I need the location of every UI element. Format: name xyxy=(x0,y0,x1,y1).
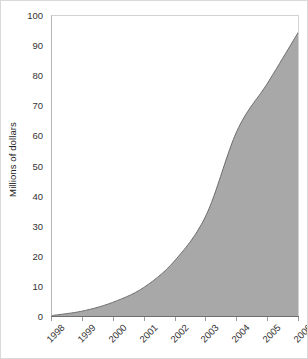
x-axis-tick xyxy=(236,317,237,321)
x-axis-tick-label: 2002 xyxy=(168,322,191,345)
x-axis-tick-label: 2006 xyxy=(291,322,308,345)
y-axis-tick-label: 90 xyxy=(32,40,43,51)
y-axis-title: Millions of dollars xyxy=(1,1,23,317)
y-axis-tick-label: 0 xyxy=(38,311,43,322)
y-axis-tick-label: 40 xyxy=(32,190,43,201)
y-axis-tick-label: 100 xyxy=(27,10,43,21)
x-axis-tick-label: 1998 xyxy=(44,322,67,345)
area-fill-shape xyxy=(52,31,299,317)
x-axis-tick-label: 2003 xyxy=(198,322,221,345)
plot-right-edge xyxy=(298,15,299,316)
x-axis-tick xyxy=(82,317,83,321)
y-axis-tick-label: 60 xyxy=(32,130,43,141)
x-axis-tick xyxy=(175,317,176,321)
y-axis-tick-label: 30 xyxy=(32,220,43,231)
y-axis-tick-label: 70 xyxy=(32,100,43,111)
x-axis-tick-label: 2004 xyxy=(229,322,252,345)
area-series-svg xyxy=(52,16,299,317)
x-axis-tick xyxy=(144,317,145,321)
x-axis-tick xyxy=(298,317,299,321)
y-axis-tick-label: 10 xyxy=(32,280,43,291)
plot-area xyxy=(51,15,299,317)
y-axis-title-label: Millions of dollars xyxy=(7,122,18,197)
y-axis-tick-labels: 0102030405060708090100 xyxy=(21,15,47,316)
x-axis-tick-label: 1999 xyxy=(75,322,98,345)
x-axis-tick xyxy=(51,317,52,321)
x-axis-tick-label: 2005 xyxy=(260,322,283,345)
x-axis-tick-labels: 199819992000200120022003200420052006 xyxy=(51,322,299,359)
x-axis-tick-label: 2000 xyxy=(106,322,129,345)
x-axis-tick xyxy=(267,317,268,321)
x-axis-tick xyxy=(113,317,114,321)
x-axis-tick-label: 2001 xyxy=(137,322,160,345)
y-axis-tick-label: 20 xyxy=(32,250,43,261)
y-axis-tick-label: 50 xyxy=(32,160,43,171)
area-chart: Millions of dollars 01020304050607080901… xyxy=(0,0,308,359)
y-axis-tick-label: 80 xyxy=(32,70,43,81)
x-axis-tick xyxy=(205,317,206,321)
